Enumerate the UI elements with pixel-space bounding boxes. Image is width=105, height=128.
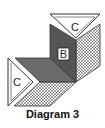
diagram-caption: Diagram 3 — [0, 108, 105, 120]
tangram-diagram: C B C — [0, 0, 105, 110]
label-b: B — [60, 48, 67, 60]
label-c-left: C — [13, 76, 21, 88]
label-c-top: C — [71, 21, 79, 33]
